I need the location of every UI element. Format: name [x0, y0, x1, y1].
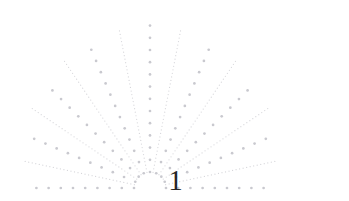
page-number-folio: 1 — [0, 166, 349, 195]
ornament-ray-6 — [90, 48, 145, 174]
ornament-ray-4 — [51, 89, 140, 178]
ornament-ray-8 — [149, 24, 152, 173]
ornament-ray-11 — [158, 61, 236, 176]
ornament-ray-5 — [64, 61, 142, 176]
ornament-ray-group — [25, 24, 276, 189]
page-canvas: 1 — [0, 0, 349, 201]
ornament-ray-10 — [155, 48, 210, 174]
